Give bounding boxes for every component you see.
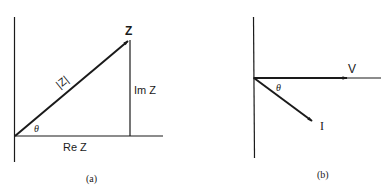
panel-b: V I θ (b)	[253, 17, 381, 181]
z-vector-arrow	[15, 41, 128, 136]
real-part-label: Re Z	[63, 141, 87, 153]
voltage-label: V	[348, 62, 356, 76]
current-label: I	[320, 119, 324, 133]
panel-a: Z |Z| Im Z Re Z θ (a)	[14, 17, 163, 185]
caption-b: (b)	[317, 169, 329, 181]
vertical-axis	[254, 17, 255, 158]
caption-a: (a)	[86, 173, 97, 185]
angle-theta-label: θ	[34, 123, 39, 134]
z-label: Z	[125, 24, 132, 38]
angle-theta-label: θ	[276, 82, 281, 93]
phasor-diagrams: Z |Z| Im Z Re Z θ (a) V I θ (b)	[0, 0, 391, 194]
imaginary-part-label: Im Z	[134, 84, 156, 96]
current-phasor-arrow	[254, 78, 312, 121]
magnitude-label: |Z|	[54, 73, 71, 90]
